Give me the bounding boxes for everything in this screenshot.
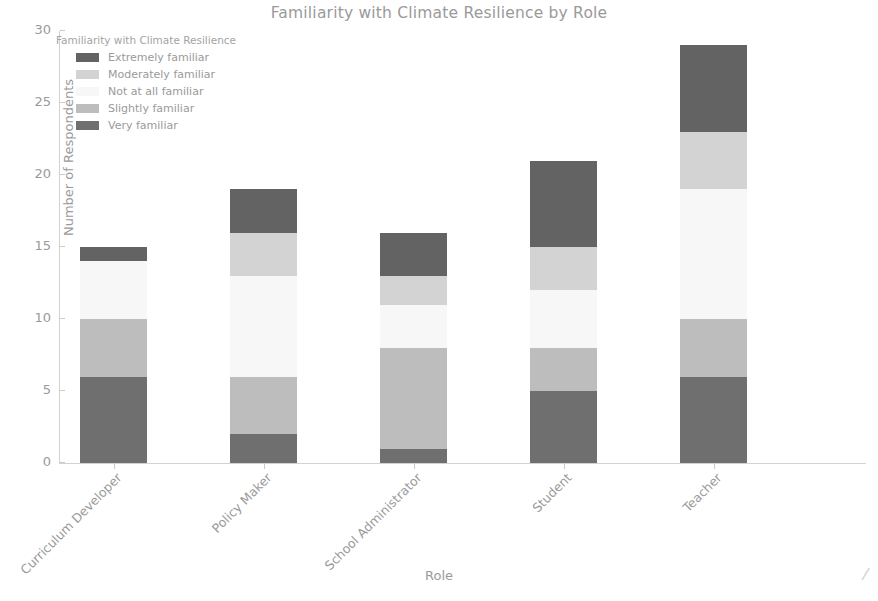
- bar-segment[interactable]: [80, 377, 147, 463]
- bar-segment[interactable]: [680, 319, 747, 377]
- x-tick-mark: [564, 464, 565, 469]
- bar-segment[interactable]: [680, 45, 747, 131]
- bar-segment[interactable]: [230, 189, 297, 232]
- bar-segment[interactable]: [230, 377, 297, 435]
- bar-segment[interactable]: [530, 161, 597, 247]
- legend-entry[interactable]: Slightly familiar: [76, 100, 286, 117]
- legend-swatch: [76, 70, 99, 79]
- legend-label: Moderately familiar: [108, 68, 215, 81]
- legend-label: Extremely familiar: [108, 51, 209, 64]
- bar-group[interactable]: [530, 31, 597, 463]
- y-tick-label: 20: [34, 166, 51, 181]
- bar-segment[interactable]: [230, 276, 297, 377]
- bar-segment[interactable]: [80, 261, 147, 319]
- y-tick-label: 25: [34, 94, 51, 109]
- x-tick-mark: [264, 464, 265, 469]
- y-tick-label: 0: [43, 454, 51, 469]
- legend-swatch: [76, 104, 99, 113]
- x-axis-spine: [59, 463, 866, 464]
- y-tick-label: 15: [34, 238, 51, 253]
- bar-segment[interactable]: [680, 189, 747, 319]
- bar-segment[interactable]: [230, 233, 297, 276]
- y-tick-label: 5: [43, 382, 51, 397]
- x-axis-label: Role: [0, 568, 878, 583]
- legend: Familiarity with Climate Resilience Extr…: [56, 34, 286, 134]
- chart-figure: Familiarity with Climate Resilience by R…: [0, 0, 878, 601]
- bar-segment[interactable]: [80, 247, 147, 261]
- bar-segment[interactable]: [530, 348, 597, 391]
- legend-label: Slightly familiar: [108, 102, 194, 115]
- y-tick-label: 10: [34, 310, 51, 325]
- bar-segment[interactable]: [80, 319, 147, 377]
- legend-label: Very familiar: [108, 119, 178, 132]
- legend-label: Not at all familiar: [108, 85, 203, 98]
- legend-entry[interactable]: Very familiar: [76, 117, 286, 134]
- bar-segment[interactable]: [530, 247, 597, 290]
- legend-title: Familiarity with Climate Resilience: [56, 34, 286, 46]
- chart-title: Familiarity with Climate Resilience by R…: [0, 4, 878, 22]
- bar-segment[interactable]: [380, 305, 447, 348]
- bar-segment[interactable]: [530, 290, 597, 348]
- legend-swatch: [76, 87, 99, 96]
- x-tick-mark: [114, 464, 115, 469]
- bar-segment[interactable]: [380, 233, 447, 276]
- bar-group[interactable]: [380, 31, 447, 463]
- legend-entry[interactable]: Moderately familiar: [76, 66, 286, 83]
- legend-entry[interactable]: Not at all familiar: [76, 83, 286, 100]
- bar-group[interactable]: [680, 31, 747, 463]
- bar-segment[interactable]: [680, 132, 747, 190]
- legend-entry[interactable]: Extremely familiar: [76, 49, 286, 66]
- x-tick-mark: [414, 464, 415, 469]
- bar-segment[interactable]: [380, 348, 447, 449]
- bar-segment[interactable]: [380, 449, 447, 463]
- legend-entries: Extremely familiarModerately familiarNot…: [56, 49, 286, 134]
- bar-segment[interactable]: [230, 434, 297, 463]
- legend-swatch: [76, 121, 99, 130]
- bar-segment[interactable]: [680, 377, 747, 463]
- y-tick-label: 30: [34, 22, 51, 37]
- legend-swatch: [76, 53, 99, 62]
- bar-segment[interactable]: [530, 391, 597, 463]
- bar-segment[interactable]: [380, 276, 447, 305]
- x-tick-mark: [714, 464, 715, 469]
